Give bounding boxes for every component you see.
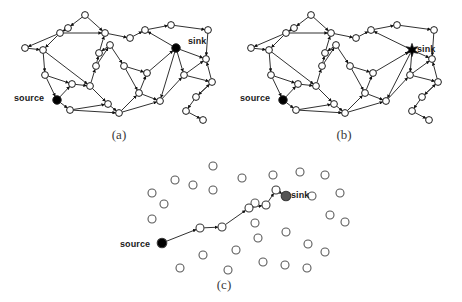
- graph-edge: [198, 84, 209, 94]
- graph-edge: [48, 76, 69, 83]
- graph-node: [419, 94, 426, 101]
- source-node: [157, 238, 167, 248]
- graph-edge: [413, 76, 434, 81]
- graph-edge: [366, 76, 371, 90]
- graph-node: [328, 30, 335, 37]
- graph-node: [203, 56, 210, 63]
- graph-node: [218, 223, 226, 231]
- graph-node: [296, 168, 304, 176]
- sink-node: [406, 43, 417, 56]
- graph-edge: [133, 32, 142, 37]
- graph-edge: [188, 100, 194, 108]
- graph-node: [281, 261, 289, 269]
- graph-edge: [92, 88, 105, 101]
- graph-node: [429, 56, 436, 63]
- sink-node: [172, 44, 180, 52]
- graph-edge: [75, 84, 86, 85]
- graph-node: [209, 186, 217, 194]
- graph-node: [353, 35, 360, 42]
- graph-node: [431, 27, 438, 34]
- graph-node: [295, 81, 302, 88]
- panel-b-source-label: source: [240, 93, 270, 103]
- graph-node: [189, 181, 197, 189]
- graph-node: [160, 200, 168, 208]
- graph-edge: [286, 86, 296, 97]
- graph-node: [67, 107, 74, 114]
- graph-edge: [274, 76, 295, 83]
- panel-c-caption: (c): [204, 277, 244, 293]
- graph-node: [303, 264, 311, 272]
- graph-edge: [127, 67, 143, 72]
- graph-edge: [126, 69, 138, 90]
- graph-edge: [46, 78, 55, 96]
- graph-node: [248, 45, 255, 52]
- graph-edge: [97, 56, 98, 62]
- panel-b-sink-label: sink: [417, 44, 435, 54]
- graph-node: [96, 50, 103, 57]
- graph-edge: [272, 78, 281, 96]
- graph-edge: [142, 94, 157, 100]
- graph-node: [333, 42, 340, 49]
- graph-edge: [374, 31, 408, 48]
- graph-node: [268, 72, 275, 79]
- graph-edge: [297, 17, 309, 26]
- graph-node: [336, 189, 344, 197]
- graph-edge: [88, 17, 103, 30]
- graph-edge: [272, 52, 314, 84]
- graph-node: [341, 218, 349, 226]
- graph-edge: [314, 17, 329, 30]
- graph-edge: [187, 61, 204, 73]
- graph-edge: [376, 52, 409, 71]
- graph-node: [251, 219, 259, 227]
- graph-node: [200, 117, 207, 124]
- graph-edge: [206, 33, 208, 55]
- graph-edge: [148, 32, 173, 46]
- graph-node: [409, 108, 416, 115]
- graph-node: [304, 240, 312, 248]
- graph-node: [342, 110, 349, 117]
- graph-node: [322, 50, 329, 57]
- graph-edge: [388, 77, 407, 98]
- graph-node: [69, 81, 76, 88]
- graph-edge: [323, 56, 324, 62]
- graph-edge: [180, 49, 203, 57]
- graph-node: [168, 22, 175, 29]
- source-node: [53, 96, 61, 104]
- graph-edge: [374, 26, 393, 30]
- graph-node: [370, 70, 377, 77]
- graph-edge: [91, 69, 95, 82]
- graph-edge: [268, 193, 273, 201]
- panel-a-sink-label: sink: [188, 36, 206, 46]
- graph-node: [262, 201, 270, 209]
- graph-edge: [148, 26, 167, 30]
- graph-node: [102, 30, 109, 37]
- graph-edge: [60, 86, 70, 97]
- graph-node: [383, 98, 390, 105]
- graph-edge: [352, 69, 364, 90]
- graph-node: [308, 12, 315, 19]
- graph-node: [368, 27, 375, 34]
- graph-edge: [368, 94, 383, 100]
- graph-edge: [225, 210, 245, 224]
- graph-node: [40, 47, 47, 54]
- graph-edge: [162, 77, 181, 98]
- graph-edge: [348, 102, 382, 112]
- graph-edge: [337, 106, 343, 111]
- graph-node: [199, 251, 207, 259]
- graph-node: [293, 107, 300, 114]
- graph-edge: [111, 106, 117, 111]
- graph-edge: [108, 34, 126, 38]
- graph-node: [196, 224, 204, 232]
- graph-edge: [301, 84, 312, 85]
- panel-b-node-group: [248, 12, 442, 124]
- graph-node: [107, 42, 114, 49]
- graph-node: [65, 25, 72, 32]
- graph-node: [435, 79, 442, 86]
- graph-edge: [338, 48, 348, 63]
- graph-node: [394, 22, 401, 29]
- graph-node: [105, 101, 112, 108]
- graph-node: [148, 189, 156, 197]
- graph-node: [193, 94, 200, 101]
- graph-edge: [326, 36, 330, 49]
- graph-edge: [413, 61, 430, 73]
